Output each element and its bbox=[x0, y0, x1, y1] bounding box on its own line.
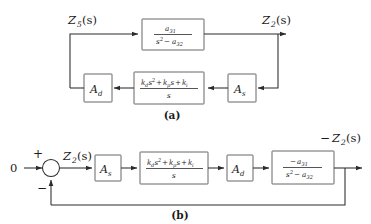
plant-b-num-minus: − bbox=[290, 157, 296, 166]
plant-a-den-sup: 2 bbox=[159, 36, 163, 42]
plant-a-num-sub: 31 bbox=[170, 28, 176, 34]
ctrl-b-den: s bbox=[172, 171, 176, 180]
plant-b-den-minus: − bbox=[294, 170, 300, 179]
plant-b-den-sub: 32 bbox=[307, 174, 313, 180]
plant-b-den-sup: 2 bbox=[289, 169, 293, 175]
signal-label-output-b: Z 2 (s) bbox=[331, 131, 361, 147]
ctrl-b-s1-sup: 2 bbox=[157, 157, 161, 163]
signal-label-output-a-arg: (s) bbox=[276, 13, 291, 27]
gain-as-sub-a: s bbox=[242, 90, 246, 98]
plant-a-den-minus: − bbox=[164, 37, 170, 46]
signal-label-error-b-arg: (s) bbox=[77, 149, 92, 163]
subfigure-a: Z 5 (s) Z 2 (s) a 31 s 2 − a 32 bbox=[67, 13, 291, 121]
signal-label-input-a-arg: (s) bbox=[82, 13, 97, 27]
gain-ad-label-a: A bbox=[89, 83, 98, 96]
gain-ad-sub-a: d bbox=[98, 90, 103, 98]
ctrl-b-s2: s bbox=[177, 158, 181, 167]
ctrl-a-s2: s bbox=[171, 78, 175, 87]
ctrl-a-plus1: + bbox=[156, 78, 162, 87]
gain-as-sub-b: s bbox=[108, 170, 112, 178]
reference-input-label-b: 0 bbox=[10, 161, 17, 175]
signal-label-output-b-arg: (s) bbox=[346, 131, 361, 145]
ctrl-b-plus2: + bbox=[181, 158, 187, 167]
gain-ad-sub-b: d bbox=[240, 170, 245, 178]
caption-a: (a) bbox=[164, 109, 181, 121]
block-diagram-figure: Z 5 (s) Z 2 (s) a 31 s 2 − a 32 bbox=[0, 0, 371, 224]
gain-as-label-b: A bbox=[99, 163, 108, 176]
sum-minus-sign-b: − bbox=[37, 181, 47, 195]
plant-a-den-sub: 32 bbox=[177, 41, 183, 47]
signal-label-input-a-Z: Z bbox=[67, 13, 77, 27]
caption-b: (b) bbox=[171, 209, 188, 221]
ctrl-a-den: s bbox=[167, 91, 171, 100]
signal-label-error-b: Z 2 (s) bbox=[62, 149, 92, 165]
plant-b-num-sub: 31 bbox=[302, 161, 308, 167]
signal-label-input-a: Z 5 (s) bbox=[67, 13, 97, 29]
output-sign-b: − bbox=[320, 131, 330, 145]
subfigure-b: 0 + − Z 2 (s) A s k d s 2 + bbox=[10, 131, 362, 221]
signal-label-output-a-Z: Z bbox=[261, 13, 271, 27]
ctrl-a-plus2: + bbox=[175, 78, 181, 87]
signal-label-output-b-Z: Z bbox=[331, 131, 341, 145]
signal-label-error-b-Z: Z bbox=[62, 149, 72, 163]
gain-as-label-a: A bbox=[233, 83, 242, 96]
signal-label-output-a: Z 2 (s) bbox=[261, 13, 291, 29]
wire-output-to-gain-as-a bbox=[258, 34, 278, 88]
summing-junction-b bbox=[43, 160, 60, 177]
ctrl-a-s1-sup: 2 bbox=[151, 77, 155, 83]
sum-plus-sign-b: + bbox=[33, 147, 43, 161]
gain-ad-label-b: A bbox=[231, 163, 240, 176]
ctrl-b-plus1: + bbox=[162, 158, 168, 167]
